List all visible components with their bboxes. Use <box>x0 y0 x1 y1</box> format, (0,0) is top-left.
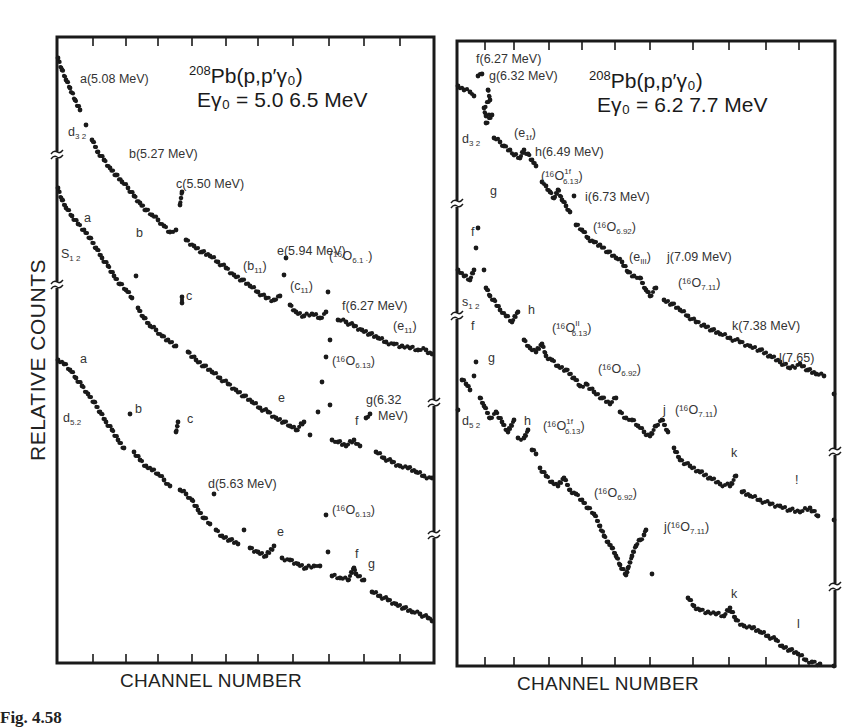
right-spectrum-panel: 208Pb(p,p′γ₀)Eγ₀ = 6.2 7.7 MeVf(6.27 MeV… <box>451 41 841 668</box>
left-x-axis-label: CHANNEL NUMBER <box>120 670 302 692</box>
peak-label: d5 2 <box>462 414 481 430</box>
peak-label: l(7.65) <box>779 351 814 365</box>
peak-label: a <box>80 352 87 366</box>
peak-label: e <box>277 525 284 539</box>
peak-label: d3 2 <box>462 132 481 148</box>
peak-label: c <box>187 412 193 426</box>
peak-label: h <box>524 414 531 428</box>
peak-label: f <box>471 319 475 333</box>
svg-text:208Pb(p,p′γ₀): 208Pb(p,p′γ₀) <box>189 63 303 87</box>
peak-label: g(6.32 MeV) <box>489 69 558 83</box>
peak-label: j <box>662 403 666 417</box>
peak-label: f(6.27 MeV) <box>342 299 407 313</box>
peak-label: g <box>488 351 495 365</box>
peak-label: (¹⁶OII6.13) <box>552 319 591 338</box>
peak-label: f(6.27 MeV) <box>476 52 541 66</box>
plot-frame <box>57 37 434 663</box>
peak-label: k <box>731 446 738 460</box>
peak-label: j(¹⁶O7.11) <box>663 520 709 536</box>
y-axis-label-text: RELATIVE COUNTS <box>26 259 50 461</box>
svg-text:Eγ₀ = 6.2 7.7 MeV: Eγ₀ = 6.2 7.7 MeV <box>597 93 767 116</box>
peak-label: (c11) <box>290 279 313 295</box>
spectrum-series <box>456 226 837 523</box>
peak-label: MeV) <box>378 409 408 423</box>
peak-label: g <box>368 557 375 571</box>
peak-label: k <box>731 587 738 601</box>
peak-label: d5.2 <box>63 411 82 427</box>
peak-label: ! <box>795 473 798 487</box>
peak-label: c(5.50 MeV) <box>176 177 244 191</box>
peak-label: j(7.09 MeV) <box>666 250 732 264</box>
svg-text:208Pb(p,p′γ₀): 208Pb(p,p′γ₀) <box>589 68 703 92</box>
peak-label: e <box>278 391 285 405</box>
peak-label: s1 2 <box>462 295 480 311</box>
figure-caption: Fig. 4.58 <box>0 708 62 728</box>
peak-label: (¹⁶O6.1 ·) <box>329 249 372 265</box>
spectrum-series <box>456 360 837 669</box>
peak-label: c <box>186 289 192 303</box>
peak-label: S1 2 <box>61 247 81 263</box>
y-axis-label: RELATIVE COUNTS <box>18 200 58 520</box>
peak-label: (¹⁶O6.13) <box>332 354 375 370</box>
peak-label: d3 2 <box>68 125 87 141</box>
peak-label: g <box>490 184 497 198</box>
peak-label: f <box>355 547 359 561</box>
peak-label: f <box>355 414 359 428</box>
peak-label: (e1f) <box>514 126 536 142</box>
peak-label: (b11) <box>243 259 267 275</box>
peak-label: (¹⁶O6.13) <box>332 503 375 519</box>
svg-text:Eγ₀ = 5.0 6.5 MeV: Eγ₀ = 5.0 6.5 MeV <box>197 88 367 111</box>
peak-label: b <box>135 402 142 416</box>
peak-label: l <box>797 617 800 631</box>
peak-label: k(7.38 MeV) <box>732 319 800 333</box>
peak-label: i(6.73 MeV) <box>585 190 650 204</box>
peak-label: b(5.27 MeV) <box>129 147 198 161</box>
peak-label: h <box>528 303 535 317</box>
spectrum-series <box>456 72 837 397</box>
peak-label: (¹⁶O6.92) <box>593 220 636 236</box>
peak-label: (e11) <box>393 319 417 335</box>
left-spectrum-panel: 208Pb(p,p′γ₀)Eγ₀ = 5.0 6.5 MeVa(5.08 MeV… <box>51 37 440 663</box>
peak-label: a(5.08 MeV) <box>80 72 149 86</box>
panel-title: 208Pb(p,p′γ₀)Eγ₀ = 5.0 6.5 MeV <box>189 63 367 111</box>
right-x-axis-label: CHANNEL NUMBER <box>517 673 699 695</box>
peak-label: (¹⁶O1f6.13) <box>543 417 585 436</box>
peak-label: a <box>84 211 91 225</box>
peak-label: g(6.32 <box>366 393 401 407</box>
peak-label: (¹⁶O7.11) <box>678 276 720 292</box>
panel-title: 208Pb(p,p′γ₀)Eγ₀ = 6.2 7.7 MeV <box>589 68 767 116</box>
peak-label: (¹⁶O1f6.13) <box>541 167 583 186</box>
peak-label: (¹⁶O6.92) <box>598 362 641 378</box>
peak-label: (¹⁶O6.92) <box>594 486 637 502</box>
peak-label: (¹⁶O7.11) <box>675 403 717 419</box>
peak-label: h(6.49 MeV) <box>535 145 604 159</box>
peak-label: d(5.63 MeV) <box>208 477 277 491</box>
peak-label: b <box>136 226 143 240</box>
peak-label: (eIII) <box>629 250 651 266</box>
peak-label: f <box>471 225 475 239</box>
